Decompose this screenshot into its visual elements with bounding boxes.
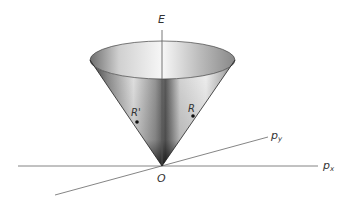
point-r-prime	[135, 120, 139, 124]
light-cone-diagram: E O px py R' R	[0, 0, 354, 208]
py-axis-label: py	[271, 130, 282, 143]
energy-axis-label: E	[158, 14, 165, 25]
px-axis-label: px	[323, 160, 334, 173]
py-axis-label-main: p	[271, 129, 278, 142]
px-axis-label-main: p	[323, 159, 330, 172]
point-r-prime-label: R'	[131, 108, 141, 118]
point-r-label: R	[188, 104, 195, 114]
origin-label: O	[157, 173, 166, 184]
diagram-canvas	[0, 0, 354, 208]
point-r	[191, 114, 195, 118]
cone-rim	[90, 41, 235, 79]
py-axis-label-sub: y	[278, 135, 282, 143]
px-axis-label-sub: x	[330, 165, 334, 173]
